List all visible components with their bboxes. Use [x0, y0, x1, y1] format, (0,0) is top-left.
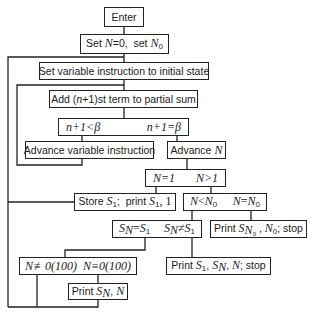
- branch-sn-not-equal-s1: SN≠S1: [164, 222, 195, 236]
- decision-beta-box: n+1<β n+1=β: [58, 118, 189, 136]
- branch-sn-equal-s1: SN=S1: [119, 222, 150, 236]
- add-term-text: Add (n+1)st term to partial sum: [51, 93, 196, 105]
- decision-n1-box: N=1 N>1: [145, 169, 226, 187]
- advance-variable-label: Advance variable instruction: [24, 145, 155, 156]
- advance-n-text: Advance N: [171, 144, 223, 156]
- branch-less-than-beta: n+1<β: [66, 121, 100, 133]
- branch-congruent: N≡0(100): [83, 260, 131, 272]
- branch-n-equal-n0: N=N0: [233, 195, 260, 209]
- advance-variable-box: Advance variable instruction: [25, 141, 154, 159]
- print-sn0-box: Print SN0 , N0; stop: [210, 220, 307, 238]
- set-variable-box: Set variable instruction to initial stat…: [39, 62, 209, 80]
- print-s1-sn-box: Print S1, SN, N; stop: [166, 257, 271, 275]
- branch-n-equals-1: N=1: [153, 172, 175, 184]
- print-sn-n-box: Print SN, N: [68, 283, 128, 300]
- store-s1-box: Store S1; print S1, 1: [74, 193, 176, 211]
- branch-n-greater-1: N>1: [196, 172, 218, 184]
- decision-sn-box: SN=S1 SN≠S1: [112, 220, 202, 238]
- branch-equal-beta: n+1=β: [147, 121, 181, 133]
- advance-n-box: Advance N: [167, 141, 226, 159]
- add-term-box: Add (n+1)st term to partial sum: [49, 90, 198, 108]
- set-n-box: Set N=0, set N0: [80, 34, 169, 54]
- enter-label: Enter: [111, 12, 136, 23]
- set-variable-label: Set variable instruction to initial stat…: [39, 66, 209, 77]
- branch-not-congruent: N≢0(100): [25, 260, 77, 272]
- store-s1-text: Store S1; print S1, 1: [78, 195, 171, 209]
- branch-n-less-n0: N<N0: [190, 195, 217, 209]
- enter-box: Enter: [104, 7, 144, 27]
- set-n-text: Set N=0, set N0: [86, 37, 163, 51]
- decision-mod-box: N≢0(100) N≡0(100): [19, 257, 137, 275]
- print-sn0-text: Print SN0 , N0; stop: [214, 222, 303, 237]
- print-sn-n-text: Print SN, N: [72, 285, 124, 299]
- print-s1-sn-text: Print S1, SN, N; stop: [171, 259, 265, 273]
- decision-n0-box: N<N0 N=N0: [183, 193, 267, 211]
